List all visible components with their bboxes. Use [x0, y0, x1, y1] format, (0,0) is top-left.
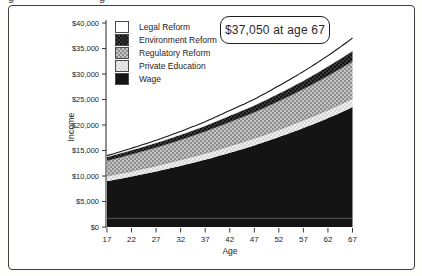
annotation-text: $37,050 at age 67	[225, 23, 325, 37]
legend-swatch-regulatory-reform	[115, 47, 129, 59]
legend-label: Wage	[139, 74, 161, 84]
figure-page: g g $0$5,000$10,000$15,000$20,000$25,000…	[0, 0, 422, 276]
legend-item-environment-reform: Environment Reform	[115, 34, 217, 45]
y-axis-title: Income	[66, 95, 76, 159]
legend-item-legal-reform: Legal Reform	[115, 21, 217, 32]
legend-label: Regulatory Reform	[139, 48, 210, 58]
legend-swatch-wage	[115, 73, 129, 85]
x-tick-label: 52	[274, 235, 283, 244]
x-axis-title: Age	[107, 246, 353, 256]
x-tick-label: 47	[250, 235, 259, 244]
x-tick-label: 27	[152, 235, 161, 244]
x-tick-label: 22	[127, 235, 136, 244]
x-tick-label: 57	[299, 235, 308, 244]
y-tick-label: $30,000	[72, 70, 99, 79]
legend-swatch-private-education	[115, 60, 129, 72]
x-tick-label: 62	[323, 235, 332, 244]
legend-label: Private Education	[139, 61, 206, 71]
legend-swatch-environment-reform	[115, 34, 129, 46]
y-tick-label: $0	[91, 223, 99, 232]
legend-item-regulatory-reform: Regulatory Reform	[115, 47, 217, 58]
x-tick-label: 42	[225, 235, 234, 244]
legend-label: Environment Reform	[139, 35, 217, 45]
legend-item-wage: Wage	[115, 73, 217, 84]
legend-label: Legal Reform	[139, 22, 190, 32]
y-tick-label: $35,000	[72, 44, 99, 53]
chart-legend: Legal ReformEnvironment ReformRegulatory…	[115, 21, 217, 86]
callout-annotation: $37,050 at age 67	[220, 16, 330, 44]
legend-item-private-education: Private Education	[115, 60, 217, 71]
x-tick-label: 17	[103, 235, 112, 244]
y-tick-label: $10,000	[72, 172, 99, 181]
x-tick-label: 67	[348, 235, 357, 244]
y-tick-label: $40,000	[72, 19, 99, 28]
x-tick-label: 32	[176, 235, 185, 244]
legend-swatch-legal-reform	[115, 21, 129, 33]
y-tick-label: $5,000	[76, 197, 99, 206]
x-tick-label: 37	[201, 235, 210, 244]
